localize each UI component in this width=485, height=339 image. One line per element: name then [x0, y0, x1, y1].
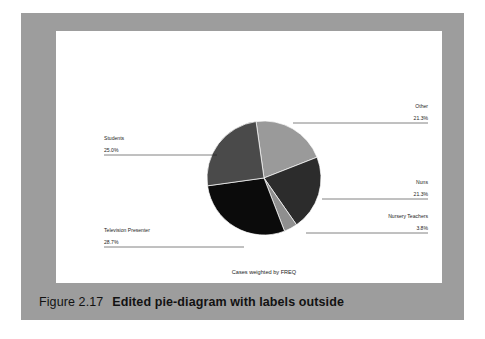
label-students-name: Students [104, 135, 125, 141]
label-nursery-teachers-name: Nursery Teachers [388, 213, 428, 219]
figure-title: Edited pie-diagram with labels outside [112, 295, 344, 309]
label-other-value: 21.3% [414, 115, 429, 121]
pie-slice-students[interactable] [207, 122, 264, 186]
label-students-value: 25.0% [104, 147, 119, 153]
label-television-presenter-name: Television Presenter [104, 227, 150, 233]
figure-number: Figure 2.17 [39, 295, 103, 309]
chart-footnote: Cases weighted by FREQ [232, 269, 297, 275]
figure-caption-text: Figure 2.17Edited pie-diagram with label… [39, 295, 344, 309]
label-nursery-teachers-value: 3.8% [416, 225, 428, 231]
label-nuns-name: Nuns [416, 179, 428, 185]
label-nuns-value: 21.3% [414, 191, 429, 197]
pie-chart: Other 21.3% Nuns 21.3% Nursery Teachers … [56, 31, 442, 283]
figure-caption-band: Figure 2.17Edited pie-diagram with label… [21, 287, 464, 320]
chart-canvas: Other 21.3% Nuns 21.3% Nursery Teachers … [56, 31, 442, 283]
label-television-presenter-value: 28.7% [104, 239, 119, 245]
figure-block: Other 21.3% Nuns 21.3% Nursery Teachers … [21, 13, 464, 320]
label-other-name: Other [415, 103, 428, 109]
